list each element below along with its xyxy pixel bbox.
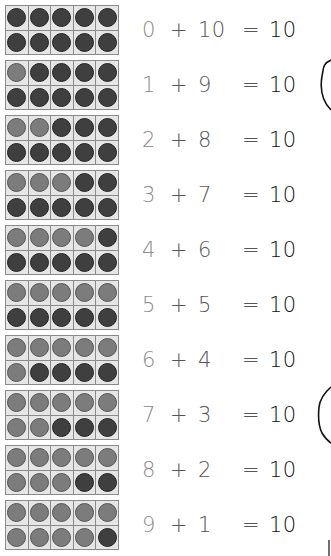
ten-frame-cell: [6, 116, 28, 140]
ten-frame-cell: [51, 141, 73, 165]
dark-counter-icon: [7, 8, 26, 27]
ten-frame-cell: [29, 526, 51, 550]
dark-counter-icon: [7, 143, 26, 162]
light-counter-icon: [7, 63, 26, 82]
ten-frame-cell: [74, 391, 96, 415]
dark-counter-icon: [75, 418, 94, 437]
ten-frame-cell: [51, 306, 73, 330]
light-counter-icon: [52, 473, 71, 492]
ten-frame-cell: [96, 526, 118, 550]
dark-counter-icon: [52, 118, 71, 137]
dark-counter-icon: [52, 63, 71, 82]
ten-frame-cell: [6, 501, 28, 525]
ten-frame-cell: [6, 336, 28, 360]
ten-frame: [5, 500, 119, 550]
light-counter-icon: [30, 528, 49, 547]
ten-frame-cell: [29, 306, 51, 330]
equals-sign: =: [242, 237, 260, 263]
ten-frame-cell: [51, 171, 73, 195]
light-counter-icon: [7, 473, 26, 492]
ten-frame: [5, 225, 119, 275]
light-counter-icon: [75, 448, 94, 467]
first-addend: 5: [142, 292, 156, 318]
ten-frame-cell: [74, 6, 96, 30]
ten-frame-cell: [74, 416, 96, 440]
dark-counter-icon: [30, 143, 49, 162]
plus-sign: +: [170, 182, 188, 208]
second-addend: 8: [198, 127, 212, 153]
ten-frame-cell: [29, 501, 51, 525]
light-counter-icon: [98, 503, 117, 522]
light-counter-icon: [75, 228, 94, 247]
ten-frame-cell: [6, 391, 28, 415]
light-counter-icon: [52, 283, 71, 302]
dark-counter-icon: [30, 308, 49, 327]
light-counter-icon: [52, 173, 71, 192]
dark-counter-icon: [7, 198, 26, 217]
equation-row: 9+1=10: [0, 500, 331, 555]
second-addend: 4: [198, 347, 212, 373]
ten-frame-cell: [29, 361, 51, 385]
second-addend: 6: [198, 237, 212, 263]
ten-frame-cell: [6, 416, 28, 440]
ten-frame-cell: [6, 281, 28, 305]
light-counter-icon: [7, 363, 26, 382]
ten-frame-cell: [6, 446, 28, 470]
light-counter-icon: [98, 393, 117, 412]
light-counter-icon: [52, 528, 71, 547]
light-counter-icon: [98, 448, 117, 467]
dark-counter-icon: [75, 198, 94, 217]
dark-counter-icon: [98, 118, 117, 137]
ten-frame-cell: [96, 416, 118, 440]
ten-frame-cell: [6, 6, 28, 30]
ten-frame-cell: [96, 61, 118, 85]
light-counter-icon: [30, 503, 49, 522]
sum: 10: [269, 512, 297, 538]
light-counter-icon: [75, 503, 94, 522]
ten-frame-cell: [96, 361, 118, 385]
equals-sign: =: [242, 182, 260, 208]
ten-frame-cell: [96, 251, 118, 275]
dark-counter-icon: [30, 198, 49, 217]
ten-frame: [5, 390, 119, 440]
dark-counter-icon: [30, 8, 49, 27]
light-counter-icon: [30, 418, 49, 437]
dark-counter-icon: [75, 88, 94, 107]
ten-frame-cell: [74, 446, 96, 470]
ten-frame: [5, 5, 119, 55]
equals-sign: =: [242, 72, 260, 98]
equation-row: 8+2=10: [0, 445, 331, 500]
ten-frame-cell: [74, 86, 96, 110]
equation-row: 3+7=10: [0, 170, 331, 225]
light-counter-icon: [75, 393, 94, 412]
ten-frame-cell: [29, 31, 51, 55]
ten-frame-cell: [96, 116, 118, 140]
ten-frame-cell: [29, 391, 51, 415]
equation-row: 1+9=10: [0, 60, 331, 115]
light-counter-icon: [7, 173, 26, 192]
ten-frame-cell: [74, 281, 96, 305]
light-counter-icon: [7, 118, 26, 137]
second-addend: 1: [198, 512, 212, 538]
ten-frame-cell: [29, 171, 51, 195]
equation-row: 7+3=10: [0, 390, 331, 445]
light-counter-icon: [52, 393, 71, 412]
hand-drawn-arc-top-icon: [300, 58, 331, 113]
ten-frame-cell: [51, 116, 73, 140]
plus-sign: +: [170, 512, 188, 538]
ten-frame-cell: [74, 116, 96, 140]
dark-counter-icon: [52, 418, 71, 437]
light-counter-icon: [30, 173, 49, 192]
ten-frame-cell: [6, 61, 28, 85]
sum: 10: [269, 17, 297, 43]
ten-frame-cell: [51, 196, 73, 220]
ten-frame: [5, 280, 119, 330]
ten-frame-cell: [96, 226, 118, 250]
dark-counter-icon: [52, 253, 71, 272]
sum: 10: [269, 457, 297, 483]
light-counter-icon: [7, 418, 26, 437]
equation-row: 6+4=10: [0, 335, 331, 390]
second-addend: 2: [198, 457, 212, 483]
sum: 10: [269, 237, 297, 263]
ten-frame-cell: [6, 196, 28, 220]
